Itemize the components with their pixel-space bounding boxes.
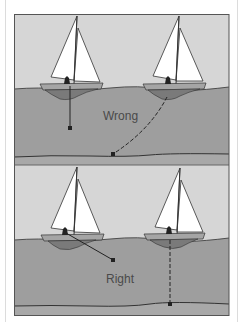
panel-wrong: Wrong [14, 14, 229, 165]
panel-right: Right [14, 165, 229, 316]
anchor-icon [111, 258, 115, 262]
anchor-icon [111, 152, 115, 156]
label-wrong: Wrong [103, 109, 138, 123]
anchor-icon [68, 126, 72, 130]
label-right: Right [106, 272, 135, 286]
anchor-icon [168, 302, 172, 306]
anchoring-illustration: Wrong Right [0, 0, 244, 322]
